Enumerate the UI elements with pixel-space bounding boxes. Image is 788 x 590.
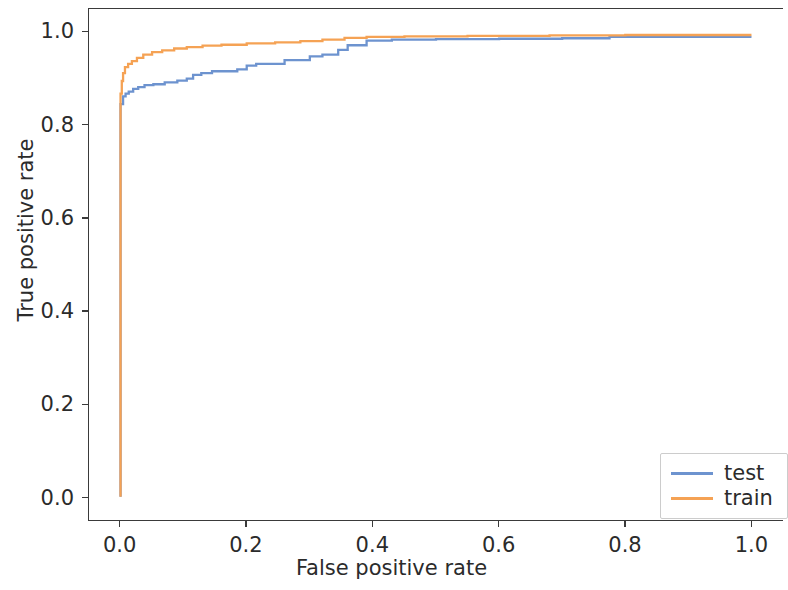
y-tick-mark: [82, 404, 88, 405]
y-tick-label: 0.0: [2, 486, 74, 510]
y-tick-label: 0.2: [2, 392, 74, 416]
y-tick-label: 0.4: [2, 299, 74, 323]
legend-swatch-test: [671, 472, 713, 475]
y-tick-mark: [82, 217, 88, 218]
legend-label: test: [724, 463, 764, 484]
y-tick-mark: [82, 31, 88, 32]
x-tick-label: 0.0: [103, 533, 136, 557]
y-axis-label: True positive rate: [14, 120, 38, 340]
plot-area: [88, 8, 783, 521]
legend-label: train: [724, 488, 773, 509]
x-tick-mark: [119, 521, 120, 527]
x-tick-mark: [245, 521, 246, 527]
x-tick-label: 0.2: [229, 533, 262, 557]
legend-item-train: train: [661, 486, 787, 511]
x-tick-label: 1.0: [735, 533, 768, 557]
x-tick-label: 0.4: [356, 533, 389, 557]
x-tick-mark: [624, 521, 625, 527]
x-tick-mark: [498, 521, 499, 527]
legend-swatch-train: [671, 497, 713, 500]
x-tick-label: 0.6: [482, 533, 515, 557]
y-tick-label: 0.6: [2, 206, 74, 230]
y-tick-mark: [82, 124, 88, 125]
chart-legend: testtrain: [660, 453, 788, 519]
x-tick-mark: [372, 521, 373, 527]
y-tick-mark: [82, 310, 88, 311]
roc-curve-train: [121, 35, 752, 497]
x-axis-label: False positive rate: [0, 556, 783, 580]
roc-curves: [89, 9, 783, 520]
x-tick-mark: [751, 521, 752, 527]
legend-item-test: test: [661, 461, 787, 486]
x-tick-label: 0.8: [608, 533, 641, 557]
y-tick-label: 1.0: [2, 19, 74, 43]
y-tick-mark: [82, 497, 88, 498]
roc-curve-test: [121, 37, 752, 497]
y-tick-label: 0.8: [2, 113, 74, 137]
